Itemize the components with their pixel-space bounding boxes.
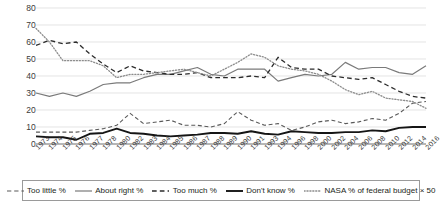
y-tick-label: 50 bbox=[26, 55, 36, 64]
plot-area bbox=[36, 8, 426, 144]
x-tick-label: 2016 bbox=[424, 134, 441, 151]
legend-label: Don't know % bbox=[246, 187, 295, 195]
y-tick-label: 40 bbox=[26, 72, 36, 81]
legend-label: NASA % of federal budget × 50 bbox=[324, 187, 435, 195]
legend-swatch-dotted bbox=[304, 187, 321, 195]
y-tick-label: 80 bbox=[26, 4, 36, 13]
series-line bbox=[36, 62, 426, 96]
y-tick-label: 20 bbox=[26, 106, 36, 115]
y-tick-label: 10 bbox=[26, 123, 36, 132]
legend-item[interactable]: NASA % of federal budget × 50 bbox=[304, 187, 435, 195]
legend-swatch-dashed bbox=[152, 187, 169, 195]
legend-label: About right % bbox=[95, 187, 143, 195]
chart-legend: Too little %About right %Too much %Don't… bbox=[22, 180, 420, 201]
legend-item[interactable]: Don't know % bbox=[226, 187, 295, 195]
legend-item[interactable]: Too much % bbox=[152, 187, 217, 195]
legend-swatch-dashed bbox=[7, 187, 24, 195]
y-tick-label: 60 bbox=[26, 38, 36, 47]
plot-svg bbox=[36, 8, 426, 144]
y-axis: 01020304050607080 bbox=[0, 0, 36, 152]
legend-swatch-solid bbox=[226, 187, 243, 195]
legend-label: Too much % bbox=[173, 187, 217, 195]
legend-item[interactable]: Too little % bbox=[7, 187, 66, 195]
legend-item[interactable]: About right % bbox=[75, 187, 144, 195]
legend-label: Too little % bbox=[27, 187, 66, 195]
x-axis: 1973197419751976197719781980198219831984… bbox=[36, 146, 426, 180]
series-line bbox=[36, 102, 426, 133]
y-tick-label: 70 bbox=[26, 21, 36, 30]
y-tick-label: 30 bbox=[26, 89, 36, 98]
legend-swatch-solid bbox=[75, 187, 92, 195]
